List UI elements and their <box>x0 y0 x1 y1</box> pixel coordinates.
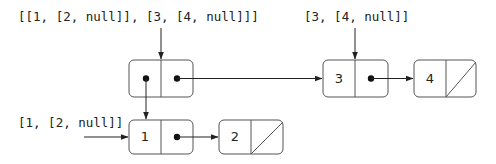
null-slash <box>446 62 476 97</box>
node-1-value: 1 <box>129 130 161 144</box>
node-4-value: 4 <box>414 72 446 86</box>
null-slash <box>251 122 283 154</box>
outer-list-label: [[1, [2, null]], [3, [4, null]]] <box>18 10 259 24</box>
second-list-label: [3, [4, null]] <box>304 10 409 24</box>
node-2-value: 2 <box>219 130 251 144</box>
node-3-value: 3 <box>323 72 355 86</box>
diagram-canvas: [[1, [2, null]], [3, [4, null]]] [3, [4,… <box>0 0 496 164</box>
first-list-label: [1, [2, null]] <box>18 116 123 130</box>
